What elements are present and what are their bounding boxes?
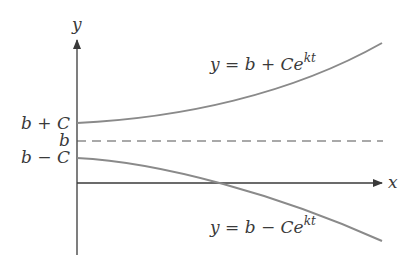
upper-curve-label: y = b + Cekt bbox=[209, 51, 316, 74]
lower-curve-label: y = b − Cekt bbox=[209, 214, 316, 237]
lower-curve-label-exp: kt bbox=[304, 214, 316, 228]
upper-curve-label-base: y = b + Ce bbox=[209, 54, 304, 74]
exponential-solutions-diagram: b + C b b − C y x y = b + Cekt y = b − C… bbox=[0, 0, 416, 269]
y-axis-label: y bbox=[71, 14, 82, 34]
lower-curve-label-base: y = b − Ce bbox=[209, 217, 304, 237]
x-axis-label: x bbox=[388, 172, 398, 192]
upper-curve-label-exp: kt bbox=[304, 51, 316, 65]
tick-label-b-minus-c: b − C bbox=[21, 147, 70, 167]
